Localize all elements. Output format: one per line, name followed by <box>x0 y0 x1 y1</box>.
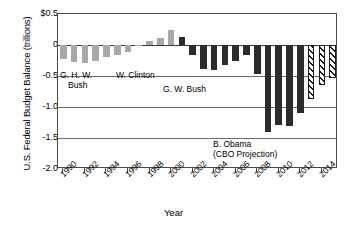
bar-1996 <box>125 45 132 52</box>
annotation-gw-bush: G. W. Bush <box>163 84 206 94</box>
annotation-line-2: (CBO Projection) <box>213 149 277 159</box>
annotation-line-1: G. H. W. <box>60 70 92 80</box>
y-tick-label: -0.5 <box>22 71 58 80</box>
annotation-clinton: W. Clinton <box>116 70 155 80</box>
bar-2000 <box>168 30 175 45</box>
bar-1992 <box>82 45 89 63</box>
plot-area: G. H. W.BushW. ClintonG. W. BushB. Obama… <box>57 13 337 168</box>
annotation-line-2: Bush <box>60 80 92 90</box>
y-tick-label: -1.5 <box>22 133 58 142</box>
x-axis-title: Year <box>0 207 347 218</box>
zero-line <box>58 45 336 46</box>
y-tick-label: $0.5 <box>22 9 58 18</box>
bar-2012 <box>297 45 304 113</box>
bar-2008 <box>254 45 261 74</box>
gridline <box>58 138 336 139</box>
bar-2006 <box>232 45 239 61</box>
bar-2015 <box>329 45 336 78</box>
bar-2009 <box>265 45 272 132</box>
y-tick-label: 0 <box>22 40 58 49</box>
annotation-line-1: W. Clinton <box>116 70 155 80</box>
bar-2010 <box>275 45 282 125</box>
bar-2011 <box>286 45 293 126</box>
bar-1998 <box>146 41 153 45</box>
bar-1993 <box>92 45 99 61</box>
gridline <box>58 107 336 108</box>
budget-balance-chart: U.S. Federal Budget Balance (trillions) … <box>0 0 347 229</box>
annotation-obama: B. Obama(CBO Projection) <box>213 139 277 159</box>
bar-1995 <box>114 45 121 55</box>
bar-1991 <box>71 45 78 62</box>
annotation-ghw-bush: G. H. W.Bush <box>60 70 92 90</box>
y-tick-label: -1.0 <box>22 102 58 111</box>
bar-1990 <box>60 45 67 59</box>
bar-2002 <box>189 45 196 55</box>
bar-1994 <box>103 45 110 57</box>
y-axis-title: U.S. Federal Budget Balance (trillions) <box>21 6 32 182</box>
bar-2007 <box>243 45 250 55</box>
bar-2004 <box>211 45 218 70</box>
bar-2003 <box>200 45 207 69</box>
bar-1997 <box>135 45 142 46</box>
bar-2005 <box>222 45 229 65</box>
gridline <box>58 76 336 77</box>
bar-2013 <box>308 45 315 99</box>
bar-1999 <box>157 38 164 45</box>
bar-2014 <box>319 45 326 85</box>
annotation-line-1: G. W. Bush <box>163 84 206 94</box>
annotation-line-1: B. Obama <box>213 139 277 149</box>
y-tick-label: -2.0 <box>22 164 58 173</box>
bar-2001 <box>179 37 186 45</box>
